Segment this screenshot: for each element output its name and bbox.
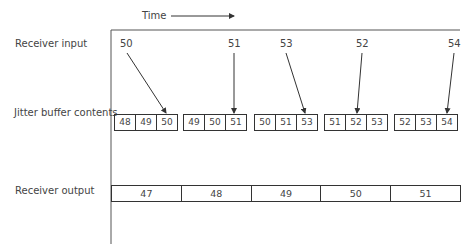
buffer-snapshot: 48 49 50 bbox=[114, 114, 178, 131]
output-packet: 48 bbox=[181, 186, 251, 201]
input-packet: 51 bbox=[228, 38, 241, 49]
output-packet: 47 bbox=[112, 186, 181, 201]
receiver-input-label: Receiver input bbox=[15, 38, 87, 49]
buffer-snapshot: 52 53 54 bbox=[394, 114, 458, 131]
buffer-snapshot: 49 50 51 bbox=[183, 114, 247, 131]
arrow-53 bbox=[286, 53, 305, 113]
buffer-cell: 52 bbox=[345, 115, 366, 130]
buffer-cell: 48 bbox=[115, 115, 135, 130]
buffer-cell: 51 bbox=[325, 115, 345, 130]
receiver-output-strip: 47 48 49 50 51 bbox=[111, 185, 461, 202]
buffer-cell: 53 bbox=[415, 115, 436, 130]
input-packet: 53 bbox=[280, 38, 293, 49]
arrow-52 bbox=[357, 53, 362, 113]
buffer-cell: 50 bbox=[255, 115, 275, 130]
output-packet: 49 bbox=[251, 186, 321, 201]
receiver-output-label: Receiver output bbox=[15, 185, 94, 196]
input-packet: 50 bbox=[120, 38, 133, 49]
buffer-cell: 49 bbox=[135, 115, 156, 130]
buffer-cell: 49 bbox=[184, 115, 204, 130]
arrow-50 bbox=[127, 53, 166, 113]
buffer-cell: 52 bbox=[395, 115, 415, 130]
buffer-cell: 53 bbox=[366, 115, 387, 130]
buffer-snapshot: 50 51 53 bbox=[254, 114, 318, 131]
input-packet: 54 bbox=[448, 38, 461, 49]
buffer-cell: 51 bbox=[275, 115, 296, 130]
output-packet: 51 bbox=[390, 186, 460, 201]
buffer-cell: 50 bbox=[156, 115, 177, 130]
buffer-snapshot: 51 52 53 bbox=[324, 114, 388, 131]
jitter-buffer-label: Jitter buffer contents bbox=[14, 107, 118, 118]
buffer-cell: 54 bbox=[436, 115, 457, 130]
buffer-cell: 50 bbox=[204, 115, 225, 130]
arrow-54 bbox=[447, 53, 454, 113]
buffer-cell: 53 bbox=[296, 115, 317, 130]
input-packet: 52 bbox=[356, 38, 369, 49]
buffer-cell: 51 bbox=[225, 115, 246, 130]
output-packet: 50 bbox=[320, 186, 390, 201]
